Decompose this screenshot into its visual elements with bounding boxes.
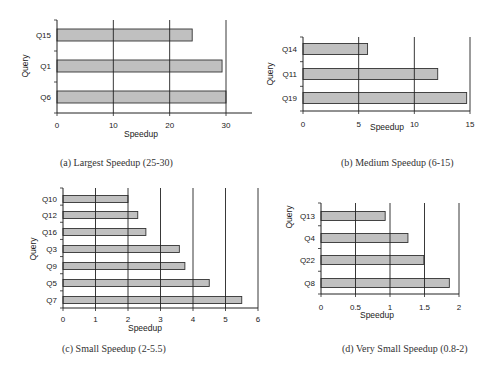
bar-q7 xyxy=(63,297,242,304)
bar-q5 xyxy=(63,280,209,287)
x-tick-label: 2 xyxy=(457,303,462,312)
y-tick-label: Q6 xyxy=(40,93,51,102)
y-axis-title: Query xyxy=(284,205,294,229)
y-tick-label: Q16 xyxy=(42,228,58,237)
caption-b: (b) Medium Speedup (6-15) xyxy=(341,157,453,168)
figure-canvas: Q15Q1Q60102030SpeedupQueryQ14Q11Q1905101… xyxy=(0,0,500,373)
y-tick-label: Q13 xyxy=(300,212,316,221)
y-tick-label: Q7 xyxy=(46,296,57,305)
x-tick-label: 10 xyxy=(109,121,118,130)
bar-q6 xyxy=(57,91,226,103)
bar-q15 xyxy=(57,29,192,41)
chart-d: Q13Q4Q22Q800.511.52SpeedupQuery xyxy=(284,203,462,320)
y-tick-label: Q11 xyxy=(282,70,297,79)
bar-q8 xyxy=(321,279,449,288)
x-tick-label: 1.5 xyxy=(419,303,431,312)
chart-c: Q10Q12Q16Q3Q9Q5Q70123456SpeedupQuery xyxy=(28,188,261,333)
bar-q22 xyxy=(321,256,424,265)
caption-a: (a) Largest Speedup (25-30) xyxy=(60,157,173,168)
y-tick-label: Q12 xyxy=(42,211,58,220)
x-tick-label: 5 xyxy=(356,120,361,129)
chart-a: Q15Q1Q60102030SpeedupQuery xyxy=(20,20,252,139)
y-tick-label: Q1 xyxy=(40,62,51,71)
x-tick-label: 6 xyxy=(256,315,261,324)
x-tick-label: 1 xyxy=(93,315,98,324)
y-tick-label: Q3 xyxy=(46,245,57,254)
chart-b: Q14Q11Q19051015SpeedupQuery xyxy=(265,37,475,132)
x-tick-label: 5 xyxy=(223,315,228,324)
y-tick-label: Q19 xyxy=(282,94,298,103)
y-axis-title: Query xyxy=(265,62,275,86)
x-axis-title: Speedup xyxy=(360,310,394,320)
y-tick-label: Q4 xyxy=(304,234,315,243)
caption-c: (c) Small Speedup (2-5.5) xyxy=(62,343,166,354)
x-tick-label: 0 xyxy=(319,303,324,312)
y-tick-label: Q10 xyxy=(42,195,58,204)
y-tick-label: Q22 xyxy=(300,256,316,265)
y-axis-title: Query xyxy=(20,54,30,78)
y-tick-label: Q9 xyxy=(46,262,57,271)
caption-d: (d) Very Small Speedup (0.8-2) xyxy=(342,343,468,354)
x-axis-title: Speedup xyxy=(370,122,404,132)
x-axis-title: Speedup xyxy=(124,129,158,139)
y-axis-title: Query xyxy=(28,237,38,261)
x-tick-label: 15 xyxy=(466,120,475,129)
bar-q9 xyxy=(63,263,185,270)
x-tick-label: 0 xyxy=(55,121,60,130)
y-tick-label: Q15 xyxy=(36,31,52,40)
x-tick-label: 4 xyxy=(191,315,196,324)
x-axis-title: Speedup xyxy=(128,323,162,333)
x-tick-label: 0 xyxy=(301,120,306,129)
y-tick-label: Q8 xyxy=(304,279,315,288)
bar-q3 xyxy=(63,246,179,253)
bar-q4 xyxy=(321,234,408,243)
bar-q12 xyxy=(63,212,138,219)
y-tick-label: Q14 xyxy=(282,45,298,54)
bar-q1 xyxy=(57,60,222,72)
x-tick-label: 0 xyxy=(61,315,66,324)
bar-q19 xyxy=(303,93,467,104)
x-tick-label: 30 xyxy=(222,121,231,130)
x-tick-label: 10 xyxy=(410,120,419,129)
x-tick-label: 20 xyxy=(165,121,174,130)
bar-q14 xyxy=(303,44,368,55)
bar-q16 xyxy=(63,229,146,236)
bar-q11 xyxy=(303,69,438,80)
bar-q13 xyxy=(321,212,385,221)
y-tick-label: Q5 xyxy=(46,279,57,288)
